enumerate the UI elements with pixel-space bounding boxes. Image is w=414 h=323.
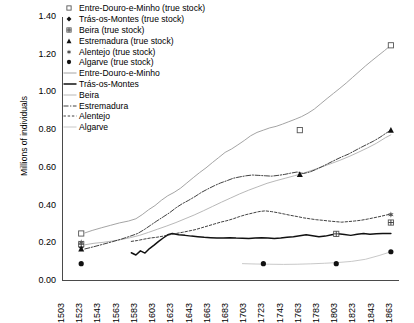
x-axis-tick-labels: 1503152315431563158316031623164316631683…: [62, 281, 399, 323]
legend-item: Trás-os-Montes (true stock): [63, 14, 253, 25]
legend-line-swatch: [63, 122, 77, 132]
data-point-marker: [67, 38, 72, 43]
legend-item: Beira: [63, 89, 253, 100]
legend-line-swatch: [63, 90, 77, 100]
x-tick-label: 1583: [130, 303, 139, 323]
data-point-marker: [297, 128, 302, 133]
y-tick-label: 1.20: [22, 50, 56, 59]
legend-line-swatch: [63, 79, 77, 89]
legend-item: Estremadura: [63, 100, 253, 111]
legend-item: Entre-Douro-e-Minho: [63, 68, 253, 79]
data-point-marker: [79, 231, 84, 236]
series-line: [131, 211, 391, 242]
legend-label: Trás-os-Montes: [77, 79, 139, 89]
legend-filled-diamond-icon: [63, 14, 77, 24]
x-tick-label: 1503: [57, 303, 66, 323]
legend-label: Estremadura: [77, 101, 128, 111]
legend-line-swatch: [63, 68, 77, 78]
x-tick-label: 1863: [385, 303, 394, 323]
data-point-marker: [388, 43, 393, 48]
legend-filled-triangle-icon: [63, 36, 77, 46]
data-point-marker: [67, 28, 71, 32]
data-point-marker: [334, 231, 339, 236]
legend-label: Beira (true stock): [77, 25, 144, 35]
y-tick-label: 0.80: [22, 125, 56, 134]
series-line: [85, 135, 391, 245]
legend-item: Beira (true stock): [63, 25, 253, 36]
legend-item: Entre-Douro-e-Minho (true stock): [63, 3, 253, 14]
x-tick-label: 1723: [257, 303, 266, 323]
legend-label: Algarve (true stock): [77, 57, 154, 67]
legend-label: Alentejo: [77, 111, 110, 121]
data-point-marker: [388, 127, 394, 133]
y-tick-label: 1.00: [22, 87, 56, 96]
legend-label: Entre-Douro-e-Minho: [77, 68, 160, 78]
legend-item: Algarve (true stock): [63, 57, 253, 68]
legend-item: Trás-os-Montes: [63, 79, 253, 90]
x-tick-label: 1763: [294, 303, 303, 323]
legend-label: Trás-os-Montes (true stock): [77, 14, 184, 24]
x-tick-label: 1703: [239, 303, 248, 323]
legend-item: Estremadura (true stock): [63, 35, 253, 46]
legend-open-square-icon: [63, 3, 77, 13]
legend-label: Entre-Douro-e-Minho (true stock): [77, 3, 205, 13]
y-axis-tick-labels: 1.401.201.000.800.600.400.200.00: [16, 0, 56, 323]
legend-label: Estremadura (true stock): [77, 36, 174, 46]
y-tick-label: 0.00: [22, 276, 56, 285]
data-point-marker: [334, 261, 339, 266]
legend-plus-square-icon: [63, 25, 77, 35]
x-tick-label: 1643: [185, 303, 194, 323]
x-tick-label: 1783: [312, 303, 321, 323]
legend-star-icon: [63, 47, 77, 57]
data-point-marker: [79, 261, 84, 266]
data-point-marker: [388, 220, 393, 225]
legend-filled-circle-icon: [63, 57, 77, 67]
chart-figure: Millions of individuals 1.401.201.000.80…: [0, 0, 414, 323]
data-point-marker: [388, 249, 393, 254]
legend-label: Algarve: [77, 122, 108, 132]
y-tick-label: 0.60: [22, 163, 56, 172]
x-tick-label: 1543: [93, 303, 102, 323]
data-point-marker: [67, 49, 72, 54]
legend-label: Alentejo (true stock): [77, 47, 155, 57]
legend-line-swatch: [63, 111, 77, 121]
y-tick-label: 1.40: [22, 12, 56, 21]
x-tick-label: 1823: [348, 303, 357, 323]
x-tick-label: 1603: [148, 303, 157, 323]
legend-label: Beira: [77, 90, 99, 100]
chart-legend: Entre-Douro-e-Minho (true stock)Trás-os-…: [63, 3, 253, 133]
data-point-marker: [67, 17, 72, 22]
series-line: [85, 130, 391, 249]
y-tick-label: 0.40: [22, 201, 56, 210]
x-tick-label: 1803: [330, 303, 339, 323]
legend-line-swatch: [63, 101, 77, 111]
x-tick-label: 1743: [276, 303, 285, 323]
data-point-marker: [67, 6, 71, 10]
x-tick-label: 1563: [112, 303, 121, 323]
x-tick-label: 1683: [221, 303, 230, 323]
data-point-marker: [67, 60, 71, 64]
x-tick-label: 1623: [166, 303, 175, 323]
data-point-marker: [261, 261, 266, 266]
y-tick-label: 0.20: [22, 238, 56, 247]
legend-item: Alentejo (true stock): [63, 46, 253, 57]
x-tick-label: 1663: [203, 303, 212, 323]
x-tick-label: 1523: [75, 303, 84, 323]
series-line: [131, 233, 391, 255]
x-tick-label: 1843: [367, 303, 376, 323]
legend-item: Algarve: [63, 122, 253, 133]
legend-item: Alentejo: [63, 111, 253, 122]
